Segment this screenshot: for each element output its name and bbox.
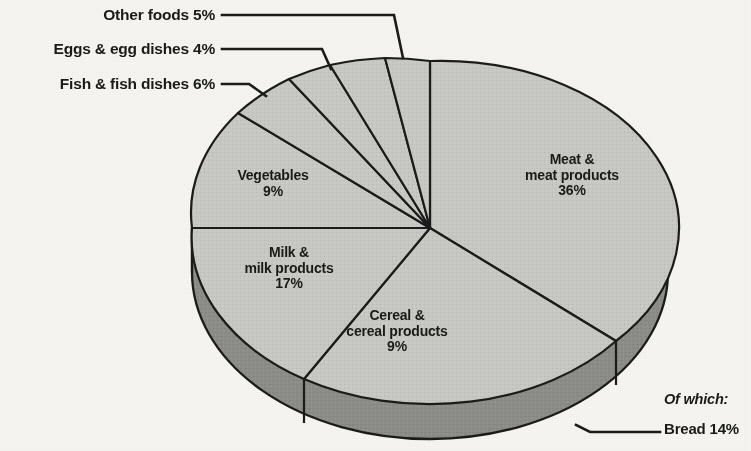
slice-label-milk-line1: Milk & [213, 245, 365, 261]
slice-label-meat-line1: Meat & [492, 152, 652, 168]
leader-line-eggs [222, 49, 331, 69]
slice-label-meat: Meat & meat products 36% [492, 152, 652, 199]
slice-label-vegetables-value: 9% [203, 184, 343, 200]
callout-label-other-foods: Other foods 5% [103, 6, 215, 23]
leader-line-other-foods [222, 15, 403, 58]
slice-label-meat-value: 36% [492, 183, 652, 199]
callout-label-eggs: Eggs & egg dishes 4% [54, 40, 215, 57]
slice-label-milk: Milk & milk products 17% [213, 245, 365, 292]
leader-line-bread [576, 425, 660, 432]
callout-label-fish: Fish & fish dishes 6% [60, 75, 215, 92]
slice-label-vegetables: Vegetables 9% [203, 168, 343, 199]
slice-label-vegetables-line1: Vegetables [203, 168, 343, 184]
slice-label-cereal: Cereal & cereal products 9% [317, 308, 477, 355]
slice-label-milk-value: 17% [213, 276, 365, 292]
footnote-bread: Bread 14% [664, 421, 739, 438]
pie-chart-figure: Other foods 5% Eggs & egg dishes 4% Fish… [0, 0, 751, 451]
slice-label-cereal-value: 9% [317, 339, 477, 355]
leader-line-fish [222, 84, 266, 96]
slice-label-cereal-line1: Cereal & [317, 308, 477, 324]
slice-label-milk-line2: milk products [213, 261, 365, 277]
slice-label-meat-line2: meat products [492, 168, 652, 184]
footnote-of-which: Of which: [664, 391, 728, 407]
slice-label-cereal-line2: cereal products [317, 324, 477, 340]
pie-chart-graphic [0, 0, 751, 451]
